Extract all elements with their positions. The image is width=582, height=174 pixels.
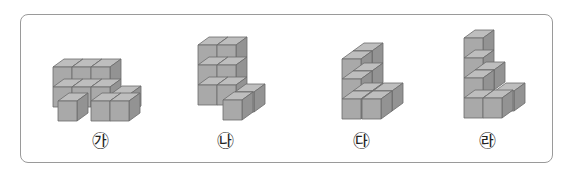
cube-face xyxy=(483,98,502,118)
label-ra: ㉱ xyxy=(476,130,498,152)
figure-ra: ㉱ xyxy=(0,0,582,174)
cube-face xyxy=(464,98,483,118)
